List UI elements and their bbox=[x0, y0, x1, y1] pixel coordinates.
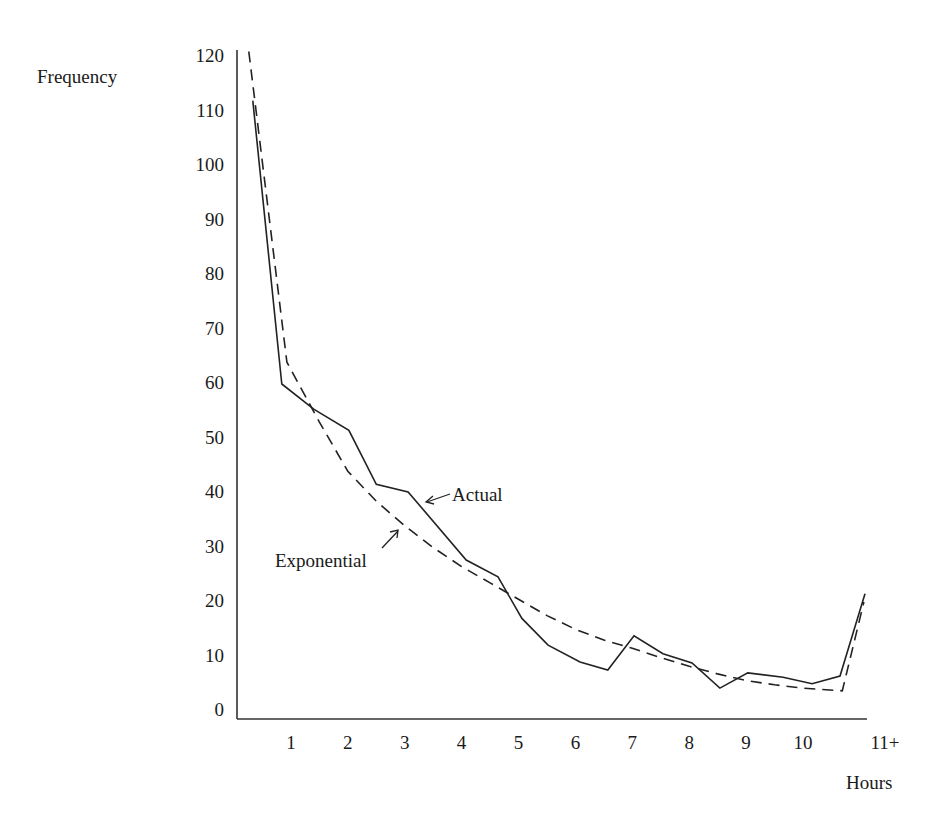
actual-annotation: Actual bbox=[452, 484, 503, 506]
x-tick-label: 1 bbox=[266, 732, 316, 754]
exponential-annotation: Exponential bbox=[275, 550, 367, 572]
actual-arrow bbox=[426, 494, 450, 504]
x-tick-label: 8 bbox=[664, 732, 714, 754]
y-axis-label: Frequency bbox=[37, 66, 117, 88]
actual-line bbox=[253, 101, 865, 689]
y-tick-label: 70 bbox=[184, 318, 224, 340]
y-tick-label: 40 bbox=[184, 481, 224, 503]
x-tick-label: 2 bbox=[323, 732, 373, 754]
y-tick-label: 100 bbox=[184, 154, 224, 176]
y-tick-label: 90 bbox=[184, 209, 224, 231]
x-tick-label: 9 bbox=[721, 732, 771, 754]
y-tick-label: 0 bbox=[184, 699, 224, 721]
exponential-arrow bbox=[382, 530, 398, 548]
y-tick-label: 20 bbox=[184, 590, 224, 612]
x-tick-label: 4 bbox=[437, 732, 487, 754]
x-tick-label: 7 bbox=[607, 732, 657, 754]
x-axis-label: Hours bbox=[846, 772, 892, 794]
exponential-line bbox=[249, 52, 864, 691]
x-tick-label: 5 bbox=[494, 732, 544, 754]
y-tick-label: 120 bbox=[184, 45, 224, 67]
x-tick-label: 3 bbox=[380, 732, 430, 754]
y-tick-label: 50 bbox=[184, 427, 224, 449]
y-tick-label: 110 bbox=[184, 100, 224, 122]
x-tick-label: 11+ bbox=[860, 732, 910, 754]
y-tick-label: 10 bbox=[184, 645, 224, 667]
y-tick-label: 60 bbox=[184, 372, 224, 394]
x-tick-label: 6 bbox=[550, 732, 600, 754]
y-tick-label: 80 bbox=[184, 263, 224, 285]
y-tick-label: 30 bbox=[184, 536, 224, 558]
chart-canvas bbox=[0, 0, 946, 825]
x-tick-label: 10 bbox=[778, 732, 828, 754]
